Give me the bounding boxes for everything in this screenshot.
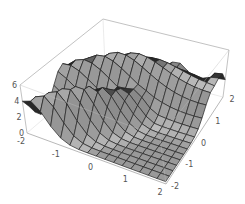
y-tick-label: 2 — [229, 95, 234, 104]
x-tick-label: -1 — [52, 150, 60, 159]
y-tick-label: 1 — [215, 117, 220, 126]
surface-mesh — [22, 52, 225, 181]
y-tick-label: -1 — [185, 160, 193, 169]
x-tick-label: 2 — [157, 188, 162, 197]
z-tick-label: 2 — [17, 113, 22, 122]
z-tick-label: 0 — [19, 129, 24, 138]
surface-plot-canvas: -2-1012-2-10120246 — [0, 0, 245, 204]
y-tick-label: -2 — [171, 182, 179, 191]
x-tick-label: 1 — [123, 175, 128, 184]
surface-plot: -2-1012-2-10120246 — [0, 0, 245, 204]
y-tick-label: 0 — [201, 139, 206, 148]
x-tick-label: -2 — [17, 137, 25, 146]
z-tick-label: 4 — [14, 97, 19, 106]
x-tick-label: 0 — [88, 163, 93, 172]
z-tick-label: 6 — [12, 81, 17, 90]
